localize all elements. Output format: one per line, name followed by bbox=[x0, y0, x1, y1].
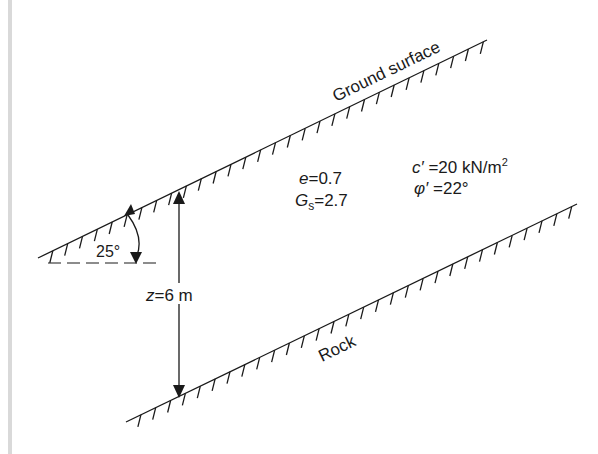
ground-surface-label: Ground surface bbox=[329, 37, 443, 105]
depth-label: z=6 m bbox=[145, 286, 193, 305]
cohesion-label: c′ =20 kN/m2 bbox=[412, 156, 508, 177]
friction-angle-label: φ′ =22° bbox=[414, 179, 469, 198]
rock-line bbox=[126, 204, 577, 427]
slope-diagram: Ground surface Rock 25° z=6 m e=0.7 Gs=2… bbox=[0, 0, 598, 454]
angle-arc-icon bbox=[124, 204, 142, 264]
ground-surface-line bbox=[38, 40, 487, 263]
specific-gravity-label: Gs=2.7 bbox=[295, 191, 348, 213]
rock-label: Rock bbox=[315, 331, 359, 365]
arrow-down-icon bbox=[173, 385, 185, 398]
void-ratio-label: e=0.7 bbox=[299, 169, 342, 188]
angle-label: 25° bbox=[96, 243, 120, 260]
